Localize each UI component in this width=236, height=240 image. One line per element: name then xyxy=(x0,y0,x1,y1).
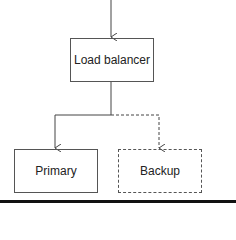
bottom-bar xyxy=(0,200,236,203)
node-label: Backup xyxy=(140,164,180,178)
node-label: Load balancer xyxy=(74,53,150,67)
edge-load-balancer-to-backup xyxy=(111,115,159,148)
node-backup: Backup xyxy=(118,149,202,193)
edge-load-balancer-to-primary xyxy=(55,81,111,148)
node-label: Primary xyxy=(35,164,76,178)
node-load-balancer: Load balancer xyxy=(70,38,154,82)
node-primary: Primary xyxy=(14,149,98,193)
